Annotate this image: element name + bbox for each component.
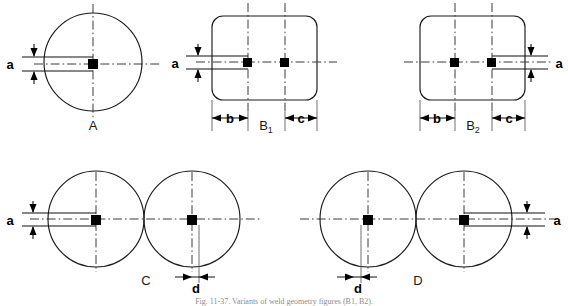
panel-b2-label-main: B [466, 118, 475, 133]
panel-a-center-marker [88, 59, 98, 69]
panel-b1-dimension-c: c [285, 111, 317, 126]
panel-d-dim-a-label: a [553, 213, 561, 228]
panel-b2-dim-b-arrow-right [446, 115, 455, 122]
panel-d-dim-d-label: d [354, 281, 362, 296]
panel-b1-dim-b-arrow-right [239, 115, 248, 122]
figure-caption: Fig. 11-37. Variants of weld geometry fi… [195, 297, 373, 306]
panel-b2-marker-right [487, 58, 496, 67]
panel-a-dim-a-arrow-up [31, 71, 38, 80]
panel-b1-label-main: B [259, 118, 268, 133]
panel-b1-label: B1 [259, 118, 273, 135]
panel-c-dim-a-arrow-up [30, 226, 37, 235]
panel-b1-rounded-rect [212, 16, 317, 100]
panel-b2-dim-b-label: b [433, 111, 441, 126]
panel-b2-dim-b-arrow-left [420, 115, 429, 122]
panel-b1-label-sub: 1 [268, 125, 273, 135]
panel-d-dimension-a: a [464, 201, 561, 239]
panel-b1-dim-c-label: c [297, 111, 304, 126]
panel-c-dim-d-arrow-left [199, 274, 208, 281]
panel-c-marker-left [91, 215, 101, 225]
panel-b1-dim-b-label: b [226, 111, 234, 126]
panel-d-dim-a-arrow-up [524, 226, 531, 235]
panel-b1-dim-a-label: a [171, 56, 179, 71]
panel-a-dim-a-arrow-down [31, 48, 38, 57]
panel-b2-dim-c-label: c [505, 111, 512, 126]
panel-b1-dimension-b: b [212, 111, 248, 126]
panel-b1-dim-c-arrow-left [285, 115, 294, 122]
panel-d-dim-d-arrow-left [361, 274, 370, 281]
panel-c-marker-right [187, 215, 197, 225]
panel-c-dim-d-label: d [192, 281, 200, 296]
panel-b1-dim-c-arrow-right [308, 115, 317, 122]
panel-b2-dim-c-arrow-left [492, 115, 501, 122]
panel-d-dim-a-arrow-down [524, 204, 531, 213]
panel-b1: a b c B1 [171, 3, 337, 135]
panel-c-dim-a-label: a [6, 213, 14, 228]
panel-b2-dim-a-arrow-down [528, 47, 535, 56]
panel-a-dim-a-label: a [6, 57, 14, 72]
panel-a: a A [6, 4, 160, 133]
panel-b2-dim-a-label: a [555, 56, 563, 71]
panel-b2: a b c B2 [404, 3, 563, 135]
panel-d-marker-left [363, 215, 373, 225]
panel-b1-dim-a-arrow-down [195, 47, 202, 56]
panel-a-label: A [89, 118, 98, 133]
panel-b2-dim-c-arrow-right [516, 115, 525, 122]
panel-b2-dimension-a: a [492, 44, 563, 82]
panel-b2-rounded-rect [420, 16, 525, 100]
panel-c-dimension-a: a [6, 201, 96, 239]
panel-c-dim-d-arrow-right [183, 274, 192, 281]
panel-b1-marker-right [280, 58, 289, 67]
panel-b1-marker-left [243, 58, 252, 67]
panel-d: a d D [300, 171, 561, 296]
panel-b1-dim-a-arrow-up [195, 69, 202, 78]
panel-b2-marker-left [450, 58, 459, 67]
technical-figure: a A a [0, 0, 568, 306]
panel-b2-dimension-c: c [492, 111, 525, 126]
panel-b1-dimension-a: a [171, 44, 248, 82]
panel-c-dim-a-arrow-down [30, 204, 37, 213]
panel-d-marker-right [459, 215, 469, 225]
panel-b2-label: B2 [466, 118, 480, 135]
panel-b2-dimension-b: b [420, 111, 455, 126]
panel-d-label: D [413, 273, 422, 288]
panel-c: a d C [6, 171, 262, 296]
panel-b2-label-sub: 2 [475, 125, 480, 135]
diagram-canvas: a A a [0, 0, 568, 306]
panel-b1-dim-b-arrow-left [212, 115, 221, 122]
panel-c-label: C [141, 273, 150, 288]
panel-c-dimension-d: d [175, 225, 215, 296]
panel-d-dim-d-arrow-right [345, 274, 354, 281]
panel-b2-dim-a-arrow-up [528, 69, 535, 78]
